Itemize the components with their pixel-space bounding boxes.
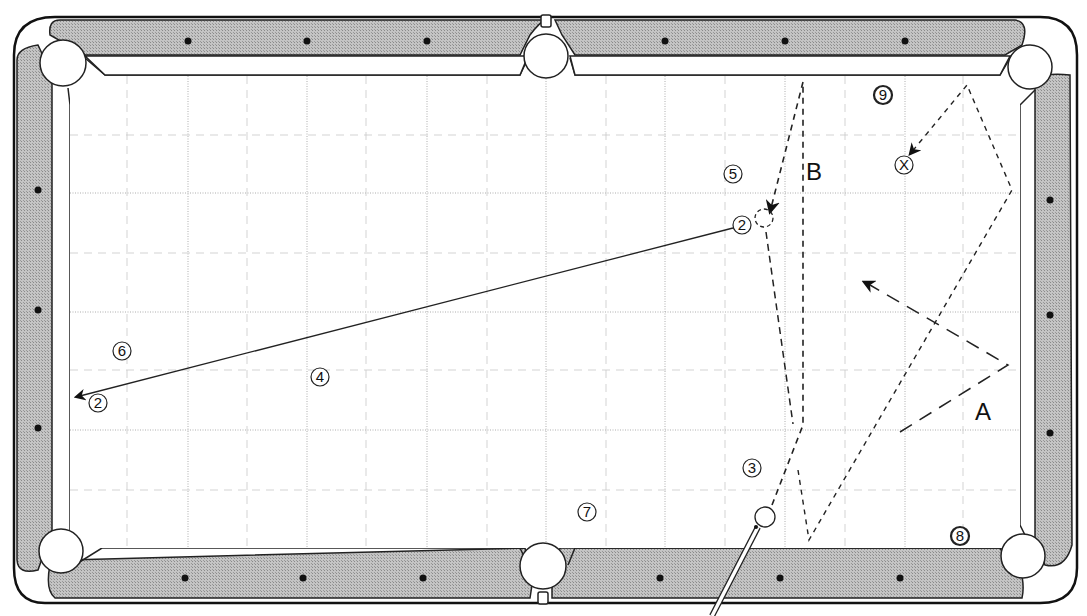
ball-label: 2: [94, 394, 102, 411]
pocket-bottom-left: [39, 529, 83, 573]
rail-diamond: [1047, 312, 1054, 319]
rail-diamond: [304, 38, 311, 45]
rail-diamond: [424, 38, 431, 45]
rail-diamond: [1047, 430, 1054, 437]
rail-diamond: [35, 307, 42, 314]
cue-ball: [755, 507, 775, 527]
rail-diamond: [300, 575, 307, 582]
rail-diamond: [782, 38, 789, 45]
rail-diamond: [35, 187, 42, 194]
ball-7: 7: [578, 503, 596, 521]
ball-9: 9: [874, 86, 892, 104]
ball-label: 3: [748, 459, 756, 476]
ball-label: 8: [956, 527, 964, 544]
ball-label: 2: [738, 216, 746, 233]
rail-diamond: [35, 425, 42, 432]
ball-3: 3: [743, 459, 761, 477]
pocket-bottom-right: [1001, 534, 1045, 578]
rail-diamond: [902, 38, 909, 45]
target-x: X: [895, 156, 913, 174]
ball-label: 7: [583, 503, 591, 520]
pocket-bottom-middle: [520, 543, 566, 589]
rail-diamond: [182, 575, 189, 582]
rail-diamond: [777, 575, 784, 582]
ball-2-pocketed: 2: [89, 394, 107, 412]
ball-label: 9: [879, 86, 887, 103]
ball-label: X: [899, 156, 909, 173]
pocket-top-left: [40, 40, 86, 86]
pool-table-diagram: 223456789X A B: [0, 0, 1087, 616]
ball-2-object: 2: [733, 216, 751, 234]
path-label-b: B: [806, 158, 822, 185]
ball-8: 8: [951, 527, 969, 545]
path-label-a: A: [975, 398, 991, 425]
rail-diamond: [185, 38, 192, 45]
pocket-top-middle: [524, 34, 568, 78]
rail-diamond: [662, 38, 669, 45]
ball-4: 4: [311, 368, 329, 386]
pocket-top-right: [1008, 45, 1052, 89]
ball-5: 5: [724, 165, 742, 183]
ball-label: 5: [729, 165, 737, 182]
rail-diamond: [1047, 197, 1054, 204]
ball-label: 6: [118, 342, 126, 359]
rail-diamond: [420, 575, 427, 582]
ball-label: 4: [316, 368, 324, 385]
rail-diamond: [657, 575, 664, 582]
rail-diamond: [897, 575, 904, 582]
ball-6: 6: [113, 342, 131, 360]
